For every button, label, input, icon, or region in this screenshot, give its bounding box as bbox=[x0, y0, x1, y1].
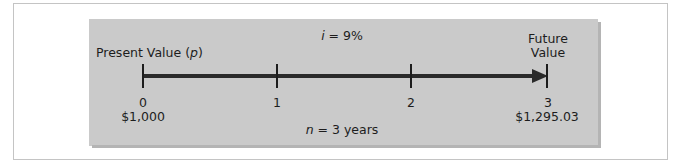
arrow-head-icon bbox=[532, 69, 548, 83]
present-value-var: p bbox=[190, 45, 198, 60]
future-value-label-line2: Value bbox=[531, 47, 565, 60]
interest-rate-value: = 9% bbox=[325, 28, 363, 43]
periods-value: = 3 years bbox=[314, 122, 379, 137]
future-value-label-line1: Future bbox=[528, 33, 568, 46]
periods-label: n = 3 years bbox=[306, 124, 379, 137]
timeline-svg bbox=[0, 0, 681, 165]
future-value-amount: $1,295.03 bbox=[515, 111, 579, 124]
present-value-amount: $1,000 bbox=[121, 111, 165, 124]
present-value-text: Present Value ( bbox=[96, 45, 190, 60]
present-value-label: Present Value (p) bbox=[96, 47, 203, 60]
tick-label-0: 0 bbox=[139, 97, 147, 110]
present-value-close: ) bbox=[198, 45, 203, 60]
interest-rate-label: i = 9% bbox=[321, 30, 363, 43]
tick-label-2: 2 bbox=[407, 97, 415, 110]
tick-label-1: 1 bbox=[273, 97, 281, 110]
periods-var: n bbox=[306, 122, 314, 137]
tick-label-3: 3 bbox=[544, 97, 552, 110]
